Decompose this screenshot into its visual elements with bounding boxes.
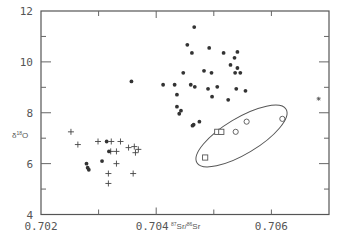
plot-frame — [41, 11, 329, 215]
square-marker — [219, 129, 224, 134]
dot-marker — [175, 93, 179, 97]
dot-marker — [210, 71, 214, 75]
dot-marker — [192, 25, 196, 29]
dot-marker — [236, 50, 240, 54]
plus-marker — [117, 138, 123, 144]
group-ellipse — [188, 94, 296, 178]
dot-marker — [222, 51, 226, 55]
dot-marker — [181, 71, 185, 75]
svg-text:δ18O: δ18O — [12, 130, 28, 140]
dot-marker — [202, 69, 206, 73]
dot-marker — [193, 85, 197, 89]
dot-marker — [236, 66, 240, 70]
plus-marker — [132, 150, 138, 156]
y-tick-label: 12 — [20, 5, 33, 18]
x-tick-label: 0.704 — [136, 220, 169, 233]
dot-marker — [189, 83, 193, 87]
dot-marker — [229, 63, 233, 67]
dot-marker — [226, 98, 230, 102]
dot-marker — [233, 71, 237, 75]
dot-marker — [185, 43, 189, 47]
dot-marker — [206, 87, 210, 91]
plus-marker — [108, 138, 114, 144]
circle-marker — [233, 129, 238, 134]
dot-marker — [100, 159, 104, 163]
plus-marker — [113, 148, 119, 154]
scatter-chart: 46810120.7020.7040.706 δ18O 87Sr/86Sr — [0, 0, 339, 235]
plus-marker — [75, 142, 81, 148]
dot-marker — [85, 162, 89, 166]
y-axis-label: δ18O — [12, 130, 28, 140]
dot-marker — [87, 168, 91, 172]
dot-marker — [244, 89, 248, 93]
plus-marker — [95, 138, 101, 144]
dot-marker — [177, 112, 181, 116]
dot-marker — [233, 56, 237, 60]
y-tick-label: 10 — [20, 56, 33, 69]
plus-marker — [131, 144, 137, 150]
star-marker — [317, 97, 321, 101]
dot-marker — [190, 51, 194, 55]
x-tick-label: 0.706 — [255, 220, 288, 233]
x-axis-label: 87Sr/86Sr — [171, 221, 201, 231]
plus-marker — [113, 161, 119, 167]
dot-marker — [207, 46, 211, 50]
plus-marker — [105, 171, 111, 177]
circle-marker — [280, 116, 285, 121]
x-tick-label: 0.702 — [24, 220, 57, 233]
circle-marker — [244, 119, 249, 124]
square-marker — [203, 155, 208, 160]
plus-marker — [126, 145, 132, 151]
dot-marker — [191, 124, 195, 128]
plus-marker — [135, 146, 141, 152]
dot-marker — [173, 83, 177, 87]
dot-marker — [238, 71, 242, 75]
dot-marker — [234, 87, 238, 91]
y-tick-label: 6 — [26, 158, 33, 171]
dot-marker — [210, 95, 214, 99]
plus-marker — [68, 129, 74, 135]
dot-marker — [107, 150, 111, 154]
dot-marker — [130, 80, 134, 84]
dot-marker — [175, 105, 179, 109]
plus-marker — [130, 171, 136, 177]
dot-marker — [105, 140, 109, 144]
plus-marker — [105, 180, 111, 186]
dot-marker — [215, 85, 219, 89]
y-tick-label: 8 — [26, 107, 33, 120]
axis-ticks — [41, 11, 329, 215]
dot-marker — [161, 83, 165, 87]
svg-text:87Sr/86Sr: 87Sr/86Sr — [171, 221, 201, 231]
dot-marker — [198, 120, 202, 124]
